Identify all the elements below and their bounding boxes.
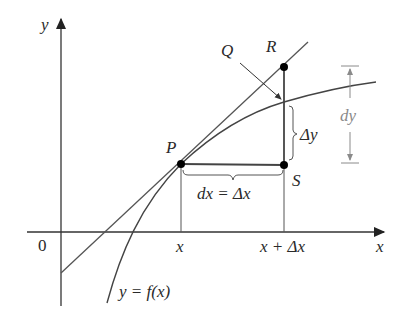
q-pointer-arrow [240, 63, 281, 99]
dx-brace [183, 170, 283, 180]
point-r [280, 63, 288, 71]
label-r: R [265, 37, 277, 56]
delta-y-brace [289, 106, 297, 160]
point-p [177, 160, 185, 168]
dx-equals-delta-x-label: dx = Δx [197, 184, 251, 203]
y-axis-label: y [39, 15, 49, 34]
x-tick-label: x [175, 237, 184, 256]
segment-ps [181, 164, 284, 165]
label-q: Q [221, 41, 233, 60]
x-axis-label: x [375, 237, 384, 256]
origin-label: 0 [38, 236, 47, 255]
label-p: P [165, 138, 176, 157]
curve-label: y = f(x) [117, 282, 170, 301]
label-s: S [292, 171, 301, 190]
x-plus-dx-tick-label: x + Δx [259, 237, 305, 256]
dy-label: dy [340, 106, 357, 125]
delta-y-label: Δy [299, 125, 318, 144]
point-s [280, 161, 288, 169]
diagram-canvas: y x 0 P Q R S dx = Δx Δy dy x x + Δx y =… [0, 0, 408, 323]
